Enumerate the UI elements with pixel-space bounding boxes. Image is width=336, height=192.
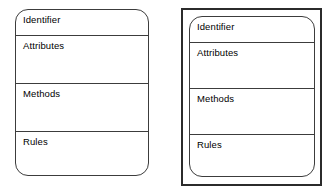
right-compartment-methods[interactable]: Methods [190,88,314,134]
right-label-identifier: Identifier [197,21,234,32]
right-label-rules: Rules [197,139,222,150]
left-label-identifier: Identifier [23,14,60,25]
right-compartment-identifier[interactable]: Identifier [190,17,314,42]
left-compartment-attributes[interactable]: Attributes [16,35,148,83]
left-label-attributes: Attributes [23,40,64,51]
left-compartment-rules[interactable]: Rules [16,131,148,175]
left-compartment-identifier[interactable]: Identifier [16,10,148,35]
left-label-methods: Methods [23,88,60,99]
diagram-canvas: Identifier Attributes Methods Rules Iden… [0,0,336,192]
left-compartment-methods[interactable]: Methods [16,83,148,131]
right-compartment-rules[interactable]: Rules [190,134,314,176]
right-label-methods: Methods [197,93,234,104]
right-label-attributes: Attributes [197,47,238,58]
right-class-box[interactable]: Identifier Attributes Methods Rules [189,16,315,177]
left-class-box[interactable]: Identifier Attributes Methods Rules [15,9,149,176]
left-label-rules: Rules [23,136,48,147]
right-compartment-attributes[interactable]: Attributes [190,42,314,88]
